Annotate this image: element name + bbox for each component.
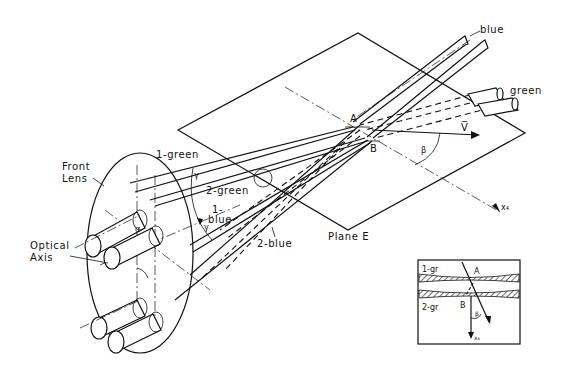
inset-label-2gr: 2-gr — [422, 303, 439, 312]
inset-label-1gr: 1-gr — [422, 265, 439, 274]
inset-label-beta: β — [475, 310, 479, 318]
inset-label-x4: x₄ — [474, 334, 481, 341]
label-point-a: A — [350, 113, 357, 124]
label-plane-e: Plane E — [328, 231, 369, 242]
inset-label-b: B — [460, 301, 466, 310]
label-green: green — [510, 85, 542, 96]
x4-axis-line — [285, 87, 500, 212]
label-x4: x₄ — [501, 203, 509, 212]
label-optical-axis-2: Axis — [30, 252, 53, 263]
phi-circle — [254, 169, 272, 187]
beam-2-blue — [175, 125, 372, 300]
label-1-blue-2: blue — [208, 214, 232, 225]
label-front-lens-1: Front — [62, 161, 90, 172]
label-gamma-1: γ — [194, 171, 199, 180]
label-gamma-2: γ — [204, 223, 209, 232]
label-beta: β — [421, 146, 426, 155]
label-2-green: 2-green — [206, 185, 249, 196]
label-alpha: α — [135, 225, 140, 234]
label-point-b: B — [370, 143, 377, 154]
label-velocity: V̅ — [461, 121, 469, 133]
inset-detail: 1-gr 2-gr A B β x₄ — [418, 260, 520, 344]
label-blue: blue — [480, 24, 504, 35]
inset-label-a: A — [474, 267, 480, 276]
label-front-lens-2: Lens — [62, 173, 88, 184]
lda-optical-diagram: blue green A B V̅ β Front Lens 1-green 2… — [0, 0, 569, 367]
label-optical-axis-1: Optical — [30, 240, 70, 251]
label-2-blue: 2-blue — [257, 238, 292, 249]
label-1-green: 1-green — [156, 149, 199, 160]
beta-angle-arc — [415, 133, 440, 165]
